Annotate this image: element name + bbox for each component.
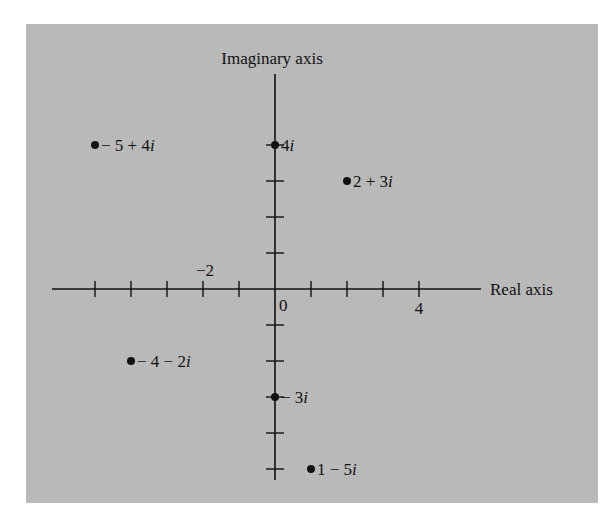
x-tick-label: 4	[415, 299, 424, 318]
complex-plane-chart: −204 − 5 + 4i4i2 + 3i− 4 − 2i− 3i1 − 5i …	[0, 0, 615, 527]
data-point	[271, 393, 279, 401]
data-point-label: − 5 + 4i	[101, 136, 155, 155]
data-point-label: 1 − 5i	[317, 460, 357, 479]
data-point	[271, 141, 279, 149]
data-point-label: − 4 − 2i	[137, 352, 191, 371]
data-point	[127, 357, 135, 365]
data-point-label: 2 + 3i	[353, 172, 393, 191]
data-point-label: − 3i	[281, 388, 308, 407]
x-tick-label: −2	[196, 261, 214, 280]
x-tick-label: 0	[279, 296, 288, 315]
data-point	[343, 177, 351, 185]
y-axis-label: Imaginary axis	[221, 49, 323, 68]
chart-background-panel	[26, 24, 598, 503]
data-point	[91, 141, 99, 149]
data-point-label: 4i	[281, 136, 295, 155]
x-axis-label: Real axis	[490, 280, 553, 299]
data-point	[307, 465, 315, 473]
